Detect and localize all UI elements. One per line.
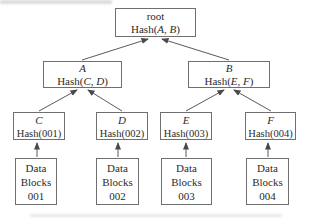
arrow-f-to-b	[234, 90, 271, 111]
data-block-4-line2: Blocks	[247, 175, 288, 189]
hash-close: )	[104, 75, 108, 87]
data-block-2-line3: 002	[97, 189, 138, 203]
node-f: F Hash(004)	[245, 112, 296, 140]
hash-close: )	[250, 75, 254, 87]
data-block-3: Data Blocks 003	[161, 158, 212, 205]
node-b-hash: Hash(E, F)	[189, 75, 269, 88]
hash-var-b: F	[243, 75, 250, 87]
data-block-3-line3: 003	[162, 189, 211, 203]
data-block-1-line1: Data	[16, 161, 56, 175]
node-c-title: C	[14, 114, 64, 127]
node-e-title: E	[161, 114, 211, 127]
data-block-4-line1: Data	[247, 161, 288, 175]
data-block-1-line2: Blocks	[16, 175, 56, 189]
node-e: E Hash(003)	[160, 112, 212, 140]
hash-prefix: Hash(	[205, 75, 231, 87]
node-f-hash: Hash(004)	[246, 127, 295, 140]
arrow-b-to-root	[162, 39, 229, 60]
data-block-4: Data Blocks 004	[246, 158, 289, 205]
node-a-hash: Hash(C, D)	[44, 75, 121, 88]
node-a: A Hash(C, D)	[43, 61, 122, 88]
root-title: root	[116, 10, 195, 23]
node-b-letter: B	[226, 62, 233, 74]
node-d-title: D	[97, 114, 147, 127]
node-c: C Hash(001)	[13, 112, 65, 140]
data-block-1-line3: 001	[16, 189, 56, 203]
node-e-letter: E	[183, 114, 190, 126]
hash-close: )	[176, 23, 180, 35]
data-block-1: Data Blocks 001	[15, 158, 57, 205]
data-block-2-line2: Blocks	[97, 175, 138, 189]
node-c-hash: Hash(001)	[14, 127, 64, 140]
node-d: D Hash(002)	[96, 112, 148, 140]
data-block-2: Data Blocks 002	[96, 158, 139, 205]
node-f-title: F	[246, 114, 295, 127]
node-c-letter: C	[35, 114, 42, 126]
arrow-d-to-a	[88, 90, 122, 111]
data-block-4-line3: 004	[247, 189, 288, 203]
data-block-3-line1: Data	[162, 161, 211, 175]
arrow-a-to-root	[82, 39, 148, 60]
data-block-2-line1: Data	[97, 161, 138, 175]
node-d-letter: D	[118, 114, 126, 126]
node-d-hash: Hash(002)	[97, 127, 147, 140]
hash-prefix: Hash(	[131, 23, 157, 35]
node-root: root Hash(A, B)	[115, 8, 196, 37]
node-a-title: A	[44, 62, 121, 75]
root-hash: Hash(A, B)	[116, 23, 195, 36]
hash-var-a: C	[83, 75, 90, 87]
node-b-title: B	[189, 62, 269, 75]
merkle-tree-diagram: root Hash(A, B) A Hash(C, D) B Hash(E, F…	[0, 0, 309, 221]
node-e-hash: Hash(003)	[161, 127, 211, 140]
hash-var-a: E	[231, 75, 238, 87]
hash-var-b: D	[96, 75, 104, 87]
node-a-letter: A	[79, 62, 86, 74]
node-f-letter: F	[267, 114, 274, 126]
arrow-e-to-b	[186, 90, 224, 111]
arrow-c-to-a	[39, 90, 77, 111]
hash-prefix: Hash(	[57, 75, 83, 87]
node-b: B Hash(E, F)	[188, 61, 270, 88]
data-block-3-line2: Blocks	[162, 175, 211, 189]
